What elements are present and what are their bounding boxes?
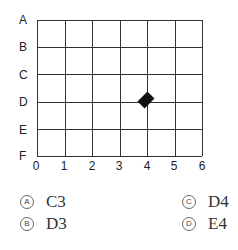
option-letter: C: [182, 195, 196, 209]
row-label: D: [19, 96, 28, 108]
grid-line: [202, 20, 203, 156]
grid-line: [92, 20, 93, 156]
row-label: E: [19, 124, 27, 136]
option-d[interactable]: D E4: [182, 214, 227, 234]
option-letter: A: [20, 195, 34, 209]
col-label: 5: [168, 160, 180, 172]
col-label: 3: [113, 160, 125, 172]
col-label: 6: [196, 160, 208, 172]
option-a[interactable]: A C3: [20, 192, 66, 212]
option-letter: D: [182, 217, 196, 231]
option-text: D4: [208, 192, 229, 212]
grid-line: [147, 20, 148, 156]
grid-line: [120, 20, 121, 156]
option-text: D3: [46, 214, 67, 234]
grid-line: [37, 20, 38, 156]
row-label: F: [19, 150, 26, 162]
row-label: C: [19, 69, 28, 81]
coordinate-grid: [37, 20, 202, 156]
col-label: 4: [141, 160, 153, 172]
grid-line: [175, 20, 176, 156]
col-label: 1: [58, 160, 70, 172]
option-letter: B: [20, 217, 34, 231]
col-label: 2: [86, 160, 98, 172]
option-text: C3: [46, 192, 66, 212]
row-label: A: [19, 14, 27, 26]
option-text: E4: [208, 214, 227, 234]
option-b[interactable]: B D3: [20, 214, 67, 234]
row-label: B: [19, 41, 27, 53]
col-label: 0: [30, 160, 42, 172]
grid-line: [65, 20, 66, 156]
option-c[interactable]: C D4: [182, 192, 229, 212]
grid-line: [37, 156, 202, 157]
